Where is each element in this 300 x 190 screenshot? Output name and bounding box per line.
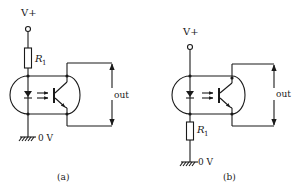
phototransistor-icon-a bbox=[54, 76, 67, 114]
supply-terminal-b bbox=[188, 45, 193, 50]
circuit-b: V+ out bbox=[172, 26, 291, 182]
led-icon-b bbox=[186, 76, 194, 114]
ground-icon-a bbox=[19, 137, 36, 141]
resistor-subscript-a: 1 bbox=[42, 59, 46, 67]
caption-b: (b) bbox=[223, 172, 236, 182]
ground-icon-b bbox=[180, 162, 198, 166]
light-arrows-icon-b bbox=[202, 93, 213, 98]
supply-label-a: V+ bbox=[20, 7, 37, 18]
optocoupler-package-b bbox=[172, 76, 245, 114]
resistor-subscript-b: 1 bbox=[204, 130, 208, 138]
ground-label-b: 0 V bbox=[198, 157, 214, 167]
output-label-b: out bbox=[276, 89, 291, 99]
optocoupler-package-a bbox=[10, 76, 80, 114]
light-arrows-icon-a bbox=[37, 93, 48, 98]
caption-a: (a) bbox=[57, 172, 69, 182]
led-icon-a bbox=[24, 76, 32, 114]
supply-label-b: V+ bbox=[182, 26, 199, 37]
ground-label-a: 0 V bbox=[38, 133, 54, 143]
resistor-r1-b bbox=[187, 122, 194, 140]
circuit-a: V+ R 1 bbox=[10, 7, 129, 182]
output-label-a: out bbox=[114, 90, 129, 100]
resistor-r1-a bbox=[25, 48, 32, 68]
supply-terminal-a bbox=[26, 27, 31, 32]
phototransistor-icon-b bbox=[219, 78, 232, 114]
